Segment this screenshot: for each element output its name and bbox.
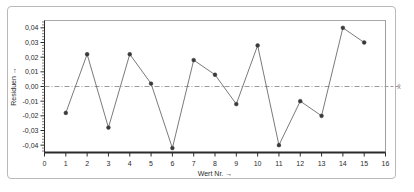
data-point-marker [85,52,89,56]
x-tick-label: 1 [64,160,68,167]
data-point-marker [128,52,132,56]
x-tick-label: 13 [318,160,326,167]
data-point-marker [234,102,238,106]
x-tick-label: 15 [360,160,368,167]
x-tick-label: 16 [382,160,390,167]
data-point-marker [192,58,196,62]
data-point-marker [149,82,153,86]
x-tick-label: 8 [213,160,217,167]
data-point-marker [320,114,324,118]
y-tick-label: -0,02 [23,112,39,119]
x-axis-title: Wert Nr. → [198,170,232,177]
x-tick-label: 5 [149,160,153,167]
y-tick-label: 0,01 [25,68,39,75]
x-tick-label: 2 [85,160,89,167]
chart-figure: 0,040,030,020,010,00-0,01-0,02-0,03-0,04… [0,0,414,192]
data-point-marker [107,126,111,130]
y-axis-tick-labels: 0,040,030,020,010,00-0,01-0,02-0,03-0,04 [23,24,39,148]
data-point-marker [298,99,302,103]
x-tick-label: 9 [234,160,238,167]
x-tick-label: 14 [339,160,347,167]
x-tick-label: 7 [192,160,196,167]
data-point-marker [277,143,281,147]
x-tick-label: 10 [254,160,262,167]
y-tick-label: 0,00 [25,83,39,90]
x-tick-label: 11 [275,160,282,167]
x-tick-label: 0 [43,160,47,167]
y-tick-label: 0,04 [25,24,39,31]
x-tick-label: 12 [296,160,304,167]
residual-plot: 0,040,030,020,010,00-0,01-0,02-0,03-0,04… [0,0,414,192]
mean-marker-label: x̄ [397,83,401,90]
data-point-marker [256,44,260,48]
data-point-marker [362,41,366,45]
x-tick-label: 3 [106,160,110,167]
x-axis-tick-labels: 012345678910111213141516 [43,160,390,167]
y-axis-title: Residuen → [10,67,17,106]
y-tick-label: 0,02 [25,54,39,61]
data-point-marker [341,26,345,30]
y-tick-label: 0,03 [25,39,39,46]
x-tick-label: 6 [170,160,174,167]
data-point-marker [64,111,68,115]
y-tick-label: -0,04 [23,142,39,149]
x-tick-label: 4 [128,160,132,167]
y-tick-label: -0,01 [23,98,39,105]
data-point-marker [213,73,217,77]
data-point-marker [170,146,174,150]
y-tick-label: -0,03 [23,127,39,134]
